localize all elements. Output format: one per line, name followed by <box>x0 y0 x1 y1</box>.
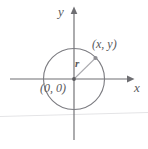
circle-point-marker <box>93 56 97 60</box>
circle-diagram-figure: y x (x, y) r (0, 0) <box>0 0 148 149</box>
origin-coordinate-label: (0, 0) <box>40 82 66 94</box>
x-axis-label: x <box>134 81 140 94</box>
point-coordinate-label: (x, y) <box>92 38 117 50</box>
circle-diagram-canvas <box>0 0 148 149</box>
origin-point-marker <box>72 77 76 81</box>
radius-label: r <box>75 58 79 69</box>
y-axis-arrowhead-icon <box>71 7 78 15</box>
y-axis-label: y <box>58 5 64 18</box>
